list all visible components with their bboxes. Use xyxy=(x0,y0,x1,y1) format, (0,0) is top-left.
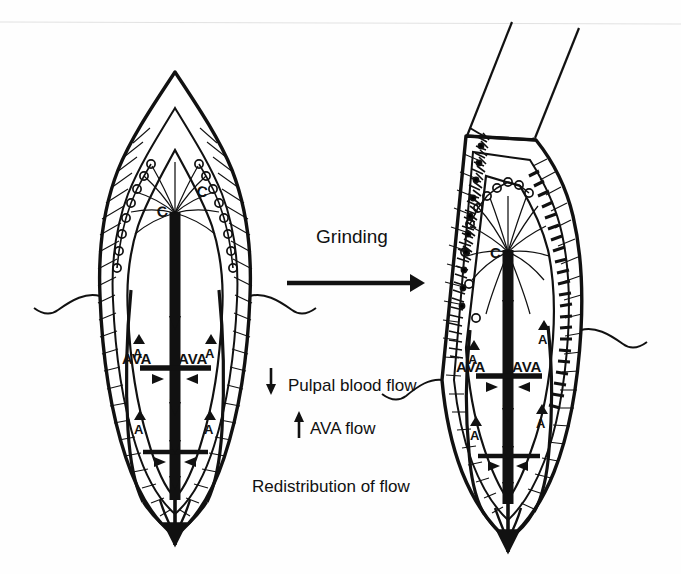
vein-label-right-2: V xyxy=(503,402,512,417)
grinding-label: Grinding xyxy=(316,226,388,247)
artery-label-left-3: A xyxy=(134,422,144,437)
artery-label-left-4: A xyxy=(204,422,214,437)
artery-label-right-3: A xyxy=(470,428,480,443)
diagram-svg: C C A A A xyxy=(0,0,681,574)
legend-label-pulpal-blood-flow: Pulpal blood flow xyxy=(288,376,417,395)
artery-label-right-4: A xyxy=(536,416,546,431)
ava-label-right-1: AVA xyxy=(456,358,486,375)
capillary-label-c-right: C xyxy=(490,244,501,261)
figure-canvas: C C A A A xyxy=(0,0,681,574)
ava-label-left-2: AVA xyxy=(178,350,208,367)
legend-label-ava-flow: AVA flow xyxy=(310,419,376,438)
ava-label-left-1: AVA xyxy=(122,350,152,367)
vein-label-left: V xyxy=(170,396,179,411)
legend-caption-redistribution: Redistribution of flow xyxy=(252,477,411,496)
ava-label-right-2: AVA xyxy=(512,358,542,375)
vein-label-right-1: V xyxy=(503,288,512,303)
artery-label-right-2: A xyxy=(538,332,548,347)
